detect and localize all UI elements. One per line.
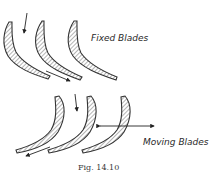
fixed-inflow-arrow: [24, 13, 27, 33]
fixed-blades-label: Fixed Blades: [91, 33, 149, 43]
moving-blades-label: Moving Blades: [143, 137, 209, 147]
moving-inflow-arrow: [75, 94, 77, 111]
turbine-blades-figure: Fixed Blades Moving Blades Fig. 14.10: [0, 0, 211, 182]
moving-blade-1: [16, 96, 64, 153]
figure-caption: Fig. 14.10: [78, 163, 119, 172]
fixed-blade-3: [68, 21, 117, 80]
fixed-blades-group: Fixed Blades: [4, 13, 149, 81]
moving-blades-group: Moving Blades: [16, 94, 209, 156]
